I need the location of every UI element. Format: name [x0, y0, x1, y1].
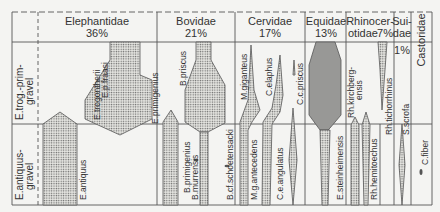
header-rhinocerotidae-pct: 7% — [377, 27, 393, 39]
label-e-p-fraasi: E.p.fraasi — [100, 62, 110, 98]
header-cervidae: Cervidae — [248, 15, 292, 27]
label-m-g-antecedens: M.g.antecedens — [249, 140, 259, 200]
header-suidae-2: dae — [393, 27, 411, 39]
label-b-cf-schoetensacki: B.cf.schoetensacki — [225, 129, 235, 200]
header-elephantidae-pct: 36% — [86, 27, 108, 39]
label-c-elaphus: C.elaphus — [264, 58, 274, 96]
label-e-primigenius: E.primigenius — [150, 73, 160, 125]
label-m-giganteus: M.giganteus — [239, 54, 249, 100]
label-c-c-priscus: C.c.priscus — [295, 63, 305, 105]
header-equidae-pct: 13% — [315, 27, 337, 39]
label-b-priscus: B.priscus — [178, 51, 188, 86]
shape-c-e-angulatus — [289, 108, 297, 205]
label-c-e-angulatus: C.e.angulatus — [275, 148, 285, 200]
header-rhinocerotidae: Rhinocer- — [346, 15, 394, 27]
suidae-pct: 1% — [394, 44, 410, 56]
label-e-antiquus: E.antiquus — [78, 160, 88, 200]
label-rh-kirchbergensis-2: ensis — [354, 80, 364, 100]
header-castoridae: Castoridae — [415, 13, 427, 66]
row-label-antiquus-2: gravel — [24, 163, 35, 190]
label-rh-tichorrhinus: Rh.tichorrhinus — [384, 78, 394, 135]
header-suidae: Sui- — [392, 15, 412, 27]
shape-s-scrofa — [399, 124, 405, 205]
shape-b-priscus-lower — [200, 132, 208, 205]
row-label-trog-prim-2: gravel — [24, 78, 35, 105]
header-bovidae: Bovidae — [176, 15, 216, 27]
shape-b-primigenius — [163, 110, 178, 205]
header-elephantidae: Elephantidae — [65, 15, 129, 27]
label-s-scrofa: S.scrofa — [401, 104, 411, 135]
label-rh-hemitoechus: Rh.hemitoechus — [369, 139, 379, 200]
header-equidae: Equidae — [306, 15, 346, 27]
label-e-steinheimensis: E.steinheimensis — [335, 136, 345, 200]
shape-b-priscus — [185, 42, 225, 132]
shape-c-fiber — [420, 169, 423, 175]
shape-equus — [309, 42, 341, 130]
shape-rh-kirchbergensis — [351, 117, 359, 205]
header-cervidae-pct: 17% — [259, 27, 281, 39]
header-rhinocerotidae-2: otidae — [348, 27, 378, 39]
label-b-murrensis: B.murrensis — [190, 155, 200, 200]
shape-e-antiquus — [43, 112, 77, 205]
header-bovidae-pct: 21% — [185, 27, 207, 39]
shape-e-steinheimensis — [320, 130, 330, 205]
fauna-diagram: Elephantidae 36% Bovidae 21% Cervidae 17… — [0, 0, 440, 212]
label-c-fiber: C.fiber — [420, 140, 430, 165]
